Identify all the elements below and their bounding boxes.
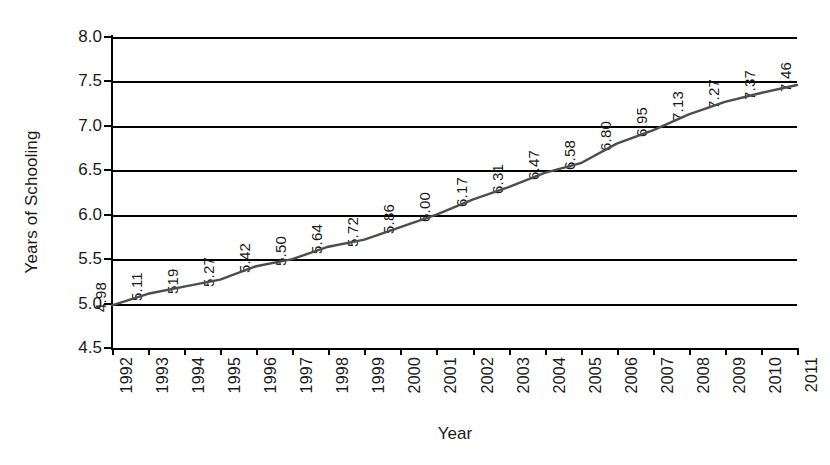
x-tick-label: 2001 <box>442 357 460 393</box>
x-tick-label: 1996 <box>262 357 280 393</box>
y-tick-mark <box>104 258 112 260</box>
x-tick-mark <box>400 348 402 355</box>
y-axis-title: Years of Schooling <box>22 102 42 302</box>
series-polyline <box>112 85 797 305</box>
y-tick-mark <box>104 125 112 127</box>
y-tick-mark <box>104 80 112 82</box>
x-tick-mark <box>653 348 655 355</box>
x-tick-mark <box>725 348 727 355</box>
series-line <box>112 37 797 348</box>
x-tick-mark <box>761 348 763 355</box>
y-tick-label: 5.5 <box>78 249 102 269</box>
x-tick-label: 2007 <box>659 357 677 393</box>
x-tick-label: 2010 <box>767 357 785 393</box>
x-tick-label: 2002 <box>479 357 497 393</box>
x-tick-label: 1995 <box>226 357 244 393</box>
x-tick-mark <box>797 348 799 355</box>
x-tick-mark <box>220 348 222 355</box>
x-tick-mark <box>617 348 619 355</box>
x-tick-label: 1992 <box>118 357 136 393</box>
x-tick-mark <box>581 348 583 355</box>
data-value-label: 4.98 <box>92 282 109 312</box>
x-tick-label: 1994 <box>190 357 208 393</box>
y-tick-mark <box>104 214 112 216</box>
y-tick-label: 6.0 <box>78 205 102 225</box>
x-tick-mark <box>689 348 691 355</box>
y-tick-label: 4.5 <box>78 338 102 358</box>
x-tick-label: 1997 <box>298 357 316 393</box>
x-tick-label: 2003 <box>515 357 533 393</box>
x-tick-label: 1999 <box>370 357 388 393</box>
y-tick-label: 6.5 <box>78 160 102 180</box>
plot-area: 8.07.57.06.56.05.55.04.5 199219931994199… <box>112 37 797 348</box>
x-tick-label: 2011 <box>803 357 821 392</box>
line-chart: Years of Schooling 8.07.57.06.56.05.55.0… <box>0 0 830 465</box>
x-tick-mark <box>436 348 438 355</box>
x-tick-label: 2005 <box>587 357 605 393</box>
y-tick-label: 8.0 <box>78 27 102 47</box>
gridline <box>112 348 797 350</box>
x-tick-mark <box>184 348 186 355</box>
x-tick-mark <box>292 348 294 355</box>
x-tick-label: 1993 <box>154 357 172 393</box>
x-axis-title: Year <box>112 424 798 444</box>
x-tick-mark <box>473 348 475 355</box>
x-tick-mark <box>112 348 114 355</box>
x-tick-mark <box>364 348 366 355</box>
x-tick-label: 2008 <box>695 357 713 393</box>
x-tick-label: 1998 <box>334 357 352 393</box>
y-tick-mark <box>104 169 112 171</box>
x-tick-label: 2004 <box>551 357 569 393</box>
y-tick-label: 7.5 <box>78 71 102 91</box>
x-tick-mark <box>509 348 511 355</box>
x-tick-mark <box>328 348 330 355</box>
y-tick-mark <box>104 36 112 38</box>
y-tick-label: 7.0 <box>78 116 102 136</box>
x-tick-label: 2009 <box>731 357 749 393</box>
x-tick-label: 2000 <box>406 357 424 393</box>
y-tick-mark <box>104 347 112 349</box>
x-tick-label: 2006 <box>623 357 641 393</box>
x-tick-mark <box>256 348 258 355</box>
x-tick-mark <box>148 348 150 355</box>
x-tick-mark <box>545 348 547 355</box>
